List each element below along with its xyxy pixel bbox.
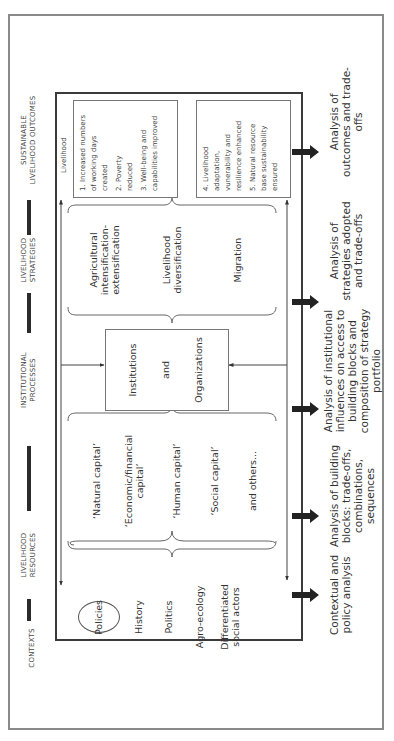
context-differentiated-social-actors: Differentiated social actors (219, 584, 241, 650)
context-agro-ecology: Agro-ecology (194, 586, 205, 649)
context-history: History (133, 600, 144, 634)
thick-arrows (292, 145, 319, 602)
strategies-brace-end (68, 197, 276, 213)
outcome-2: 2. Poverty reduced (114, 103, 136, 191)
resources-brace-left (70, 531, 275, 543)
organizations-label: Organizations (193, 337, 204, 403)
analysis-institutional-influences: Analysis of institutional influences on … (322, 309, 382, 434)
policies-oval: Policies (78, 601, 120, 633)
analysis-contextual-policy: Contextual and policy analysis (328, 555, 352, 635)
outcomes-livelihood-label: Livelihood (60, 137, 68, 173)
arrow-outcomes-analysis (292, 145, 319, 159)
context-politics: Politics (163, 600, 174, 633)
outcomes-box-1-text: 1. Increased numbers of working days cre… (78, 103, 161, 191)
resource-human-capital: ‘Human capital’ (171, 443, 182, 518)
outcome-3: 3. Well-being and capabilities improved (139, 103, 161, 191)
diagram-stage: CONTEXTS LIVELIHOOD RESOURCES INSTITUTIO… (0, 0, 394, 741)
outcomes-box-2-text: 4. Livelihood adaptation, vunerability a… (201, 103, 281, 191)
institutions-label: Institutions (127, 343, 138, 396)
arrow-contextual-analysis (292, 588, 319, 602)
analysis-outcomes: Analysis of outcomes and trade- offs (328, 67, 364, 177)
arrow-institutional-analysis (292, 402, 319, 416)
resource-others: and others... (247, 451, 258, 511)
sustainable-livelihoods-framework-diagram: CONTEXTS LIVELIHOOD RESOURCES INSTITUTIO… (0, 0, 394, 741)
analysis-strategies: Analysis of strategies adopted and trade… (328, 201, 364, 300)
strategy-agricultural-intensification: Agricultural intensification- extensific… (88, 225, 121, 296)
strategy-livelihood-diversification: Livelihood diversification (161, 227, 183, 294)
resources-brace-start (68, 541, 276, 557)
strategies-brace-start (68, 307, 276, 323)
arrow-strategies-analysis (292, 295, 319, 309)
analysis-building-blocks: Analysis of building blocks: trade-offs,… (328, 445, 376, 547)
institutions-and-label: and (160, 361, 171, 379)
outcome-4: 4. Livelihood adaptation, vunerability a… (201, 103, 245, 191)
resource-natural-capital: ‘Natural capital’ (91, 443, 102, 519)
outcome-1: 1. Increased numbers of working days cre… (78, 103, 111, 191)
resource-social-capital: ‘Social capital’ (209, 446, 220, 515)
strategy-migration: Migration (232, 238, 243, 283)
resource-economic-financial-capital: ‘Economic/financial capital’ (123, 435, 145, 527)
arrow-building-blocks-analysis (292, 509, 319, 523)
outcome-5: 5. Natural resource base sustainability … (248, 103, 281, 191)
